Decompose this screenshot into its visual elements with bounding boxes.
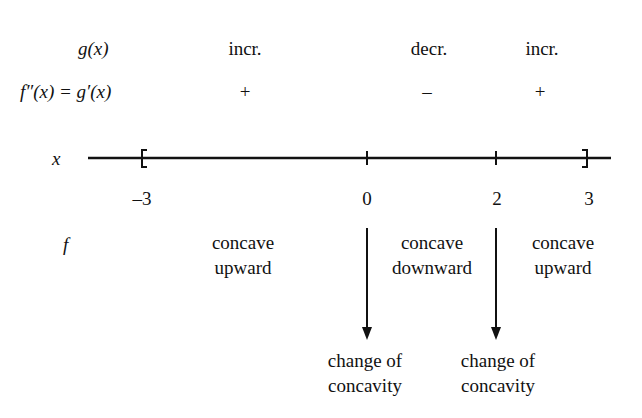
interval-3-concavity-line1: concave (532, 232, 594, 254)
interval-3-sign: + (535, 81, 546, 103)
arrowhead-icon (362, 327, 372, 340)
tick-label-0: 0 (362, 188, 372, 210)
number-line-diagram (0, 0, 642, 418)
interval-2-g-behavior: decr. (411, 38, 447, 60)
f2-row-label: f″(x) = g′(x) (20, 81, 111, 103)
interval-2-concavity-line1: concave (401, 232, 463, 254)
annotation-0-line1: change of (328, 350, 402, 372)
annotation-0-line2: concavity (328, 375, 402, 397)
interval-2-sign: – (422, 81, 432, 103)
annotation-2-line1: change of (461, 350, 535, 372)
f-row-label: f (63, 234, 68, 256)
tick-label-neg3: –3 (133, 188, 152, 210)
tick-label-2: 2 (492, 188, 502, 210)
interval-1-g-behavior: incr. (228, 38, 261, 60)
g-row-label: g(x) (78, 38, 109, 60)
interval-1-concavity-line1: concave (212, 232, 274, 254)
interval-3-concavity-line2: upward (535, 257, 592, 279)
annotation-2-line2: concavity (461, 375, 535, 397)
x-axis-label: x (52, 148, 60, 170)
tick-label-3: 3 (584, 188, 594, 210)
interval-2-concavity-line2: downward (392, 257, 472, 279)
interval-1-concavity-line2: upward (215, 257, 272, 279)
arrowhead-icon (491, 327, 501, 340)
interval-1-sign: + (240, 81, 251, 103)
interval-3-g-behavior: incr. (525, 38, 558, 60)
